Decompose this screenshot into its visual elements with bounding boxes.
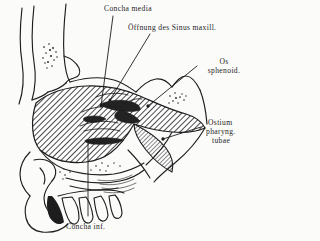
label-ostium-line1: Ostium <box>208 118 232 127</box>
label-ostium-line2: pharyng. <box>206 127 236 136</box>
label-os-sphenoid-line1: Os <box>200 57 248 66</box>
label-os-sphenoid-line2: sphenoid. <box>200 66 248 75</box>
label-concha-inf: Concha inf. <box>66 222 105 231</box>
label-ostium-line3: tubae <box>212 136 230 145</box>
label-concha-media: Concha media <box>104 4 152 13</box>
label-oeffnung-sinus-maxill: Öffnung des Sinus maxill. <box>128 23 216 32</box>
